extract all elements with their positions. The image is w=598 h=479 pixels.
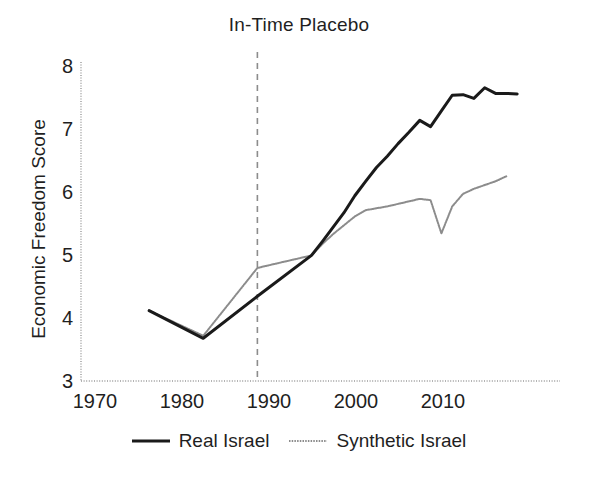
chart-legend: Real Israel Synthetic Israel: [0, 430, 598, 452]
legend-item-real-israel[interactable]: Real Israel: [132, 430, 270, 452]
legend-item-synthetic-israel[interactable]: Synthetic Israel: [289, 430, 466, 452]
legend-label-real-israel: Real Israel: [179, 430, 270, 452]
series-line-synthetic-israel: [149, 176, 506, 336]
legend-label-synthetic-israel: Synthetic Israel: [336, 430, 466, 452]
chart-figure: In-Time Placebo Economic Freedom Score 8…: [0, 0, 598, 479]
series-line-real-israel: [149, 88, 517, 339]
plot-area: [0, 0, 598, 479]
legend-swatch-solid-icon: [132, 436, 170, 446]
legend-swatch-dotted-icon: [289, 436, 327, 446]
